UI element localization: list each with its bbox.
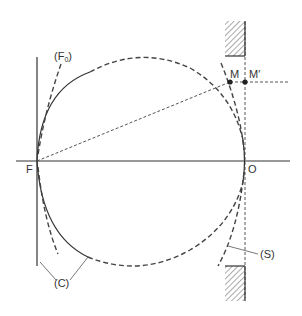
label-F: F <box>26 163 33 175</box>
point-M-prime <box>242 79 247 84</box>
label-S: (S) <box>260 248 275 260</box>
upper-hatched-block <box>225 21 245 56</box>
label-M: M <box>230 68 239 80</box>
point-M <box>227 79 232 84</box>
lower-hatched-block <box>225 266 245 301</box>
optics-diagram: (F0) M M′ F O (S) (C) <box>0 0 302 316</box>
label-C: (C) <box>54 277 69 289</box>
curve-S-lower <box>218 172 244 266</box>
curve-F0 <box>38 64 61 155</box>
ray-F-to-M <box>37 82 230 161</box>
leader-S <box>228 246 258 254</box>
leader-C-right <box>70 257 88 280</box>
curve-F0-lower <box>38 167 58 254</box>
label-F0: (F0) <box>54 50 72 63</box>
label-M-prime: M′ <box>249 68 260 80</box>
label-O: O <box>248 163 257 175</box>
